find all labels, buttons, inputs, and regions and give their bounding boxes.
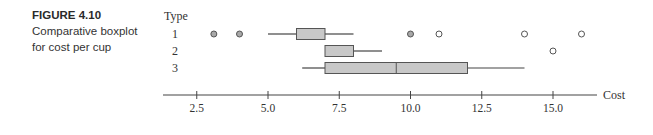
x-tick-label: 15.0 bbox=[543, 102, 563, 114]
outlier-open-marker bbox=[550, 48, 556, 54]
x-tick-label: 10.0 bbox=[400, 102, 420, 114]
boxplot-series bbox=[211, 29, 585, 74]
group-axis-title: Type bbox=[164, 9, 188, 23]
x-axis: 2.55.07.510.012.515.0 Cost bbox=[163, 88, 626, 114]
boxplot-type-3 bbox=[302, 63, 524, 74]
row-labels: 123 bbox=[172, 27, 178, 75]
boxplot-chart: Type 123 2.55.07.510.012.515.0 Cost bbox=[0, 0, 653, 135]
boxplot-type-1 bbox=[211, 29, 585, 40]
row-label-type-1: 1 bbox=[172, 27, 178, 41]
row-label-type-2: 2 bbox=[172, 44, 178, 58]
x-axis-label: Cost bbox=[603, 88, 626, 102]
iqr-box bbox=[325, 46, 354, 57]
outlier-open-marker bbox=[579, 31, 585, 37]
outlier-open-marker bbox=[522, 31, 528, 37]
x-tick-label: 2.5 bbox=[190, 102, 205, 114]
x-tick-label: 12.5 bbox=[472, 102, 492, 114]
x-tick-label: 7.5 bbox=[332, 102, 347, 114]
boxplot-type-2 bbox=[325, 46, 556, 57]
outlier-open-marker bbox=[436, 31, 442, 37]
iqr-box bbox=[297, 29, 326, 40]
outlier-filled-marker bbox=[237, 31, 243, 37]
outlier-filled-marker bbox=[408, 31, 414, 37]
row-label-type-3: 3 bbox=[172, 61, 178, 75]
x-tick-label: 5.0 bbox=[261, 102, 276, 114]
outlier-filled-marker bbox=[211, 31, 217, 37]
